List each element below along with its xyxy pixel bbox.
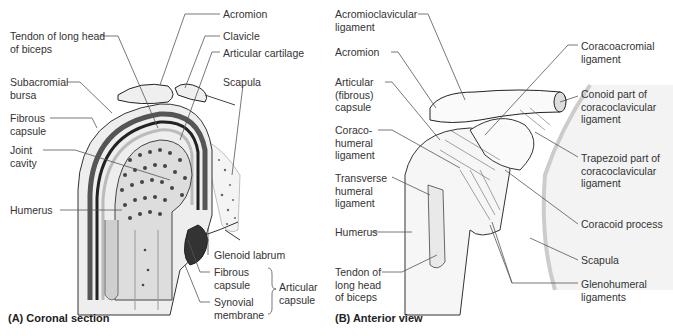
label-acromion-a: Acromion — [223, 8, 267, 21]
caption-coronal-section: (A) Coronal section — [8, 312, 109, 324]
caption-anterior-view: (B) Anterior view — [335, 312, 423, 324]
label-transverse-humeral-ligament: Transverse humeral ligament — [335, 172, 387, 210]
label-articular-capsule: Articular capsule — [279, 281, 318, 306]
label-humerus-a: Humerus — [10, 204, 53, 217]
label-coracoacromial-ligament: Coracoacromial ligament — [581, 40, 655, 65]
label-tendon-long-head-biceps-b: Tendon of long head of biceps — [335, 266, 381, 304]
label-glenohumeral-ligaments: Glenohumeral ligaments — [581, 278, 647, 303]
label-fibrous-capsule-b: Fibrous capsule — [214, 266, 250, 291]
label-subacromial-bursa: Subacromial bursa — [10, 76, 68, 101]
label-acromioclavicular-ligament: Acromioclavicular ligament — [335, 8, 417, 33]
label-tendon-long-head-biceps-a: Tendon of long head of biceps — [10, 30, 105, 55]
label-articular-fibrous-capsule: Articular (fibrous) capsule — [335, 76, 374, 114]
label-joint-cavity: Joint cavity — [10, 144, 37, 169]
label-scapula-b: Scapula — [581, 254, 619, 267]
label-clavicle: Clavicle — [223, 30, 260, 43]
label-trapezoid-part: Trapezoid part of coracoclavicular ligam… — [581, 152, 660, 190]
label-scapula-a: Scapula — [223, 76, 261, 89]
label-glenoid-labrum: Glenoid labrum — [214, 249, 285, 262]
label-synovial-membrane: Synovial membrane — [214, 296, 264, 321]
label-coracohumeral-ligament: Coraco- humeral ligament — [335, 124, 375, 162]
label-humerus-b: Humerus — [335, 226, 378, 239]
label-fibrous-capsule-a: Fibrous capsule — [10, 112, 46, 137]
label-coracoid-process: Coracoid process — [581, 218, 663, 231]
label-acromion-b: Acromion — [335, 46, 379, 59]
label-articular-cartilage: Articular cartilage — [223, 47, 304, 60]
label-conoid-part: Conoid part of coracoclavicular ligament — [581, 88, 656, 126]
